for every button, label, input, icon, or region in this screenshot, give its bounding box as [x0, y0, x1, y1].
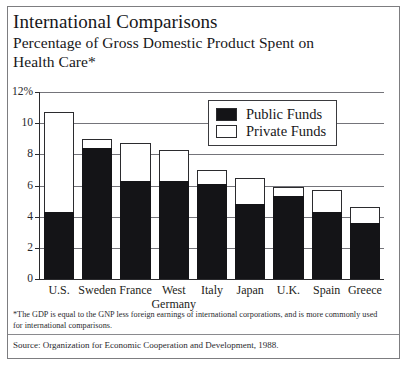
chart-figure: International Comparisons Percentage of …: [0, 0, 407, 365]
y-tick-label-6: 6: [27, 180, 33, 192]
y-tick-label-10: 10: [22, 117, 34, 129]
x-tick-label: France: [119, 284, 152, 298]
bar-segment-public-funds: [312, 212, 342, 279]
bar-segment-public-funds: [197, 184, 227, 279]
bar-segment-public-funds: [350, 223, 380, 279]
bar-segment-public-funds: [120, 181, 150, 279]
x-tick-label: Italy: [201, 284, 223, 298]
chart-subtitle-line-2: Health Care*: [13, 52, 378, 71]
y-tick-mark-0: [35, 279, 40, 280]
footnote-divider: [8, 334, 399, 335]
footnote: *The GDP is equal to the GNP less foreig…: [13, 310, 385, 331]
chart-legend: Public Funds Private Funds: [208, 100, 337, 146]
x-tick-label: Sweden: [78, 284, 116, 298]
legend-item-public-funds: Public Funds: [216, 106, 326, 123]
bar-segment-public-funds: [159, 181, 189, 279]
bar-greece: Greece: [350, 92, 380, 279]
source-note: Source: Organization for Economic Cooper…: [13, 340, 385, 351]
x-tick-label: U.S.: [48, 284, 69, 298]
title-block: International Comparisons Percentage of …: [13, 11, 378, 71]
x-tick-label: WestGermany: [151, 284, 196, 311]
legend-label-private-funds: Private Funds: [246, 124, 326, 139]
bar-segment-public-funds: [44, 212, 74, 279]
chart-subtitle-line-1: Percentage of Gross Domestic Product Spe…: [13, 33, 378, 52]
bar-segment-public-funds: [235, 204, 265, 279]
bar-france: France: [120, 92, 150, 279]
y-tick-label-4: 4: [27, 211, 33, 223]
bar-sweden: Sweden: [82, 92, 112, 279]
legend-item-private-funds: Private Funds: [216, 123, 326, 140]
bar-segment-public-funds: [82, 148, 112, 279]
bar-west-germany: WestGermany: [159, 92, 189, 279]
bar-us: U.S.: [44, 92, 74, 279]
legend-swatch-private-funds-icon: [216, 125, 237, 138]
y-tick-label-0: 0: [27, 273, 33, 285]
y-tick-label-8: 8: [27, 149, 33, 161]
y-tick-label-12: 12%: [12, 86, 33, 98]
y-tick-label-2: 2: [27, 242, 33, 254]
x-tick-label: Spain: [313, 284, 340, 298]
x-tick-label: Japan: [237, 284, 264, 298]
chart-title: International Comparisons: [13, 11, 378, 33]
legend-swatch-public-funds-icon: [216, 108, 237, 121]
x-tick-label: U.K.: [277, 284, 300, 298]
bar-segment-public-funds: [273, 196, 303, 279]
legend-label-public-funds: Public Funds: [246, 107, 322, 122]
x-tick-label: Greece: [348, 284, 382, 298]
